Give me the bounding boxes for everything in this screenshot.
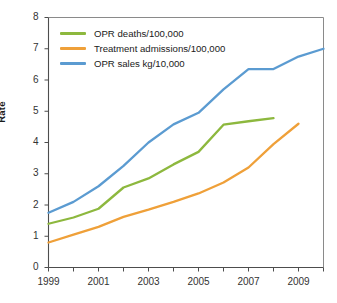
series-line-2: [49, 124, 299, 243]
x-tick-label: 2007: [232, 276, 266, 287]
legend-swatch-icon: [60, 32, 86, 35]
y-tick-label: 0: [23, 261, 39, 272]
x-tick-label: 2001: [82, 276, 116, 287]
legend-swatch-icon: [60, 62, 86, 65]
x-tick-label: 2003: [132, 276, 166, 287]
x-tick-label: 2005: [182, 276, 216, 287]
legend-item-label: Treatment admissions/100,000: [94, 43, 225, 54]
legend-item: OPR sales kg/10,000: [60, 56, 225, 71]
y-tick-label: 7: [23, 42, 39, 53]
y-axis-title: Rate: [0, 82, 7, 142]
legend-item: Treatment admissions/100,000: [60, 41, 225, 56]
x-tick-label: 1999: [32, 276, 66, 287]
legend-item-label: OPR sales kg/10,000: [94, 58, 185, 69]
y-tick-label: 3: [23, 167, 39, 178]
y-tick-label: 1: [23, 230, 39, 241]
legend-swatch-icon: [60, 47, 86, 50]
y-tick-label: 5: [23, 105, 39, 116]
x-tick-label: 2009: [282, 276, 316, 287]
chart-legend: OPR deaths/100,000Treatment admissions/1…: [60, 26, 225, 71]
y-tick-label: 6: [23, 74, 39, 85]
y-tick-label: 2: [23, 199, 39, 210]
legend-item: OPR deaths/100,000: [60, 26, 225, 41]
y-tick-label: 4: [23, 136, 39, 147]
line-chart: Rate 012345678 199920012003200520072009 …: [0, 0, 337, 303]
legend-item-label: OPR deaths/100,000: [94, 28, 184, 39]
series-line-3: [49, 49, 324, 213]
y-tick-label: 8: [23, 11, 39, 22]
